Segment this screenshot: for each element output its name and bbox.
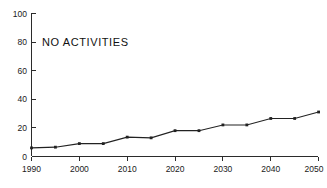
data-point-marker bbox=[126, 136, 129, 139]
x-axis-ticks bbox=[32, 157, 319, 162]
y-axis-label-60: 60 bbox=[18, 66, 28, 76]
y-axis-label-20: 20 bbox=[18, 123, 28, 133]
x-axis-label-1990: 1990 bbox=[22, 164, 41, 174]
data-point-marker bbox=[30, 146, 33, 149]
x-axis-label-2050: 2050 bbox=[305, 164, 324, 174]
data-point-marker bbox=[54, 146, 57, 149]
y-axis-ticks bbox=[32, 14, 37, 157]
y-axis-label-80: 80 bbox=[18, 37, 28, 47]
x-axis-label-2000: 2000 bbox=[70, 164, 89, 174]
x-axis-label-2040: 2040 bbox=[261, 164, 280, 174]
x-axis-label-2010: 2010 bbox=[118, 164, 137, 174]
data-series-markers bbox=[30, 111, 320, 150]
x-axis-labels: 1990 2000 2010 2020 2030 2040 2050 bbox=[22, 164, 324, 174]
data-point-marker bbox=[150, 136, 153, 139]
y-axis-label-100: 100 bbox=[13, 9, 27, 19]
data-point-marker bbox=[198, 129, 201, 132]
line-chart: 100 80 60 40 20 0 1990 2000 2010 2020 20… bbox=[0, 0, 327, 188]
x-axis-label-2030: 2030 bbox=[213, 164, 232, 174]
data-point-marker bbox=[269, 117, 272, 120]
data-point-marker bbox=[317, 111, 320, 114]
y-axis-labels: 100 80 60 40 20 0 bbox=[13, 9, 27, 162]
x-axis-label-2020: 2020 bbox=[166, 164, 185, 174]
data-point-marker bbox=[245, 124, 248, 127]
y-axis-label-40: 40 bbox=[18, 94, 28, 104]
data-point-marker bbox=[222, 124, 225, 127]
data-point-marker bbox=[102, 142, 105, 145]
y-axis-label-0: 0 bbox=[22, 152, 27, 162]
data-point-marker bbox=[78, 142, 81, 145]
chart-title: NO ACTIVITIES bbox=[42, 36, 129, 48]
chart-container: 100 80 60 40 20 0 1990 2000 2010 2020 20… bbox=[0, 0, 327, 188]
data-point-marker bbox=[293, 117, 296, 120]
data-point-marker bbox=[174, 129, 177, 132]
